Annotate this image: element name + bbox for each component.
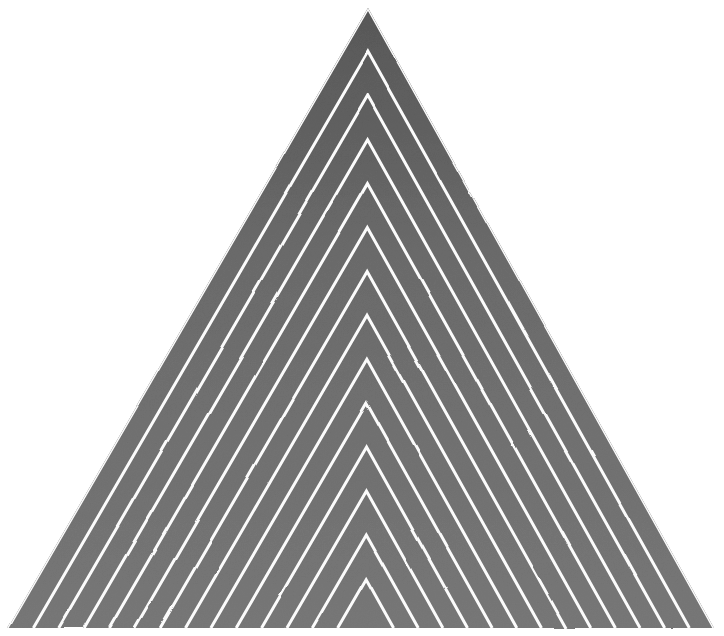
artboard: concentric-chevron-triangle A large isoc…	[0, 0, 724, 636]
chevron-triangle-artwork	[0, 0, 724, 636]
